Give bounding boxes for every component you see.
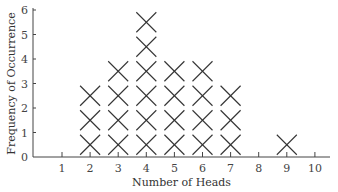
x-tick-label: 6 — [199, 162, 206, 175]
x-marker — [136, 37, 156, 57]
x-marker — [136, 135, 156, 155]
x-axis-label: Number of Heads — [132, 176, 231, 189]
x-marker — [221, 86, 241, 106]
x-marker — [221, 135, 241, 155]
y-tick-label: 0 — [21, 151, 28, 164]
x-marker — [80, 135, 100, 155]
x-marker — [193, 110, 213, 130]
x-marker — [136, 61, 156, 81]
x-marker — [277, 135, 297, 155]
x-marker — [108, 135, 128, 155]
y-tick-label: 3 — [21, 78, 28, 91]
x-tick-label: 4 — [143, 162, 150, 175]
x-tick-label: 2 — [87, 162, 94, 175]
x-marker — [80, 110, 100, 130]
x-tick-label: 3 — [115, 162, 122, 175]
x-marker — [164, 110, 184, 130]
x-tick-label: 10 — [308, 162, 322, 175]
y-tick-label: 6 — [21, 4, 28, 17]
x-tick-label: 1 — [59, 162, 66, 175]
x-marker — [136, 12, 156, 32]
x-marker — [136, 86, 156, 106]
y-axis-label: Frequency of Occurrence — [5, 12, 18, 154]
x-marker — [108, 86, 128, 106]
x-tick-label: 9 — [283, 162, 290, 175]
x-marker — [221, 110, 241, 130]
y-tick-label: 1 — [21, 127, 28, 140]
x-marker — [164, 86, 184, 106]
x-marker — [193, 86, 213, 106]
x-marker — [193, 61, 213, 81]
x-marker — [108, 61, 128, 81]
x-marker — [108, 110, 128, 130]
x-tick-label: 5 — [171, 162, 178, 175]
y-tick-label: 5 — [21, 29, 28, 42]
x-marker — [164, 61, 184, 81]
x-tick-label: 7 — [227, 162, 234, 175]
x-marker — [80, 86, 100, 106]
x-marker — [164, 135, 184, 155]
x-marker — [193, 135, 213, 155]
dot-plot-chart: 012345612345678910Number of HeadsFrequen… — [0, 0, 338, 192]
y-tick-label: 4 — [21, 53, 28, 66]
x-tick-label: 8 — [255, 162, 262, 175]
y-tick-label: 2 — [21, 102, 28, 115]
x-marker — [136, 110, 156, 130]
